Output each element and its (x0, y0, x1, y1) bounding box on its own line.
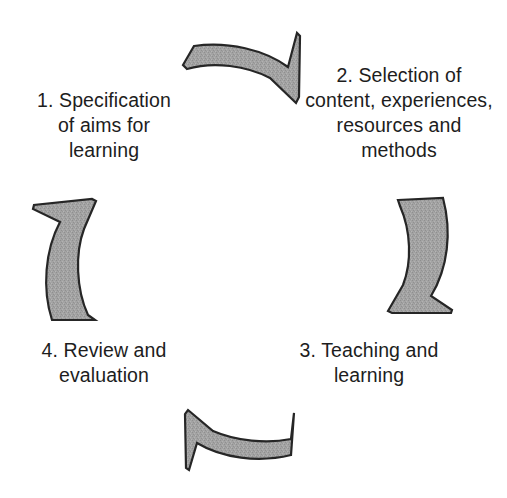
arrow-right (388, 198, 452, 313)
arrow-left (33, 199, 96, 320)
cycle-diagram: 1. Specification of aims for learning 2.… (0, 0, 507, 498)
stage-label-2: 2. Selection of content, experiences, re… (292, 63, 506, 163)
arrow-top (183, 33, 300, 103)
arrow-bottom (185, 410, 294, 470)
stage-label-1: 1. Specification of aims for learning (8, 88, 200, 163)
stage-label-4: 4. Review and evaluation (12, 338, 196, 388)
stage-label-3: 3. Teaching and learning (276, 338, 462, 388)
